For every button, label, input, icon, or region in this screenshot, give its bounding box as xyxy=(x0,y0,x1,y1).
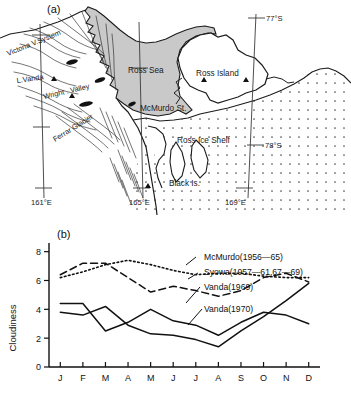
y-tick-label-2: 2 xyxy=(36,334,41,344)
cloudiness-chart-panel: (b) Cloudiness 02468 JFMAMJJASOND McMurd… xyxy=(0,213,351,400)
x-axis-month-label-10: N xyxy=(283,373,290,383)
graticule-label-lon-169e: 169°E xyxy=(225,198,246,207)
x-axis-month-label-8: S xyxy=(238,373,244,383)
legend-label-3: Vanda(1970) xyxy=(204,304,253,314)
x-axis-month-label-9: O xyxy=(260,373,267,383)
ross-island-east-spur xyxy=(266,77,294,83)
map-label-mcmurdo-station: McMurdo St. xyxy=(140,104,186,113)
x-axis-month-label-7: A xyxy=(215,373,221,383)
x-axis-month-label-3: A xyxy=(125,373,131,383)
legend-label-0: McMurdo(1956—65) xyxy=(204,252,283,262)
legend-leader-3 xyxy=(188,309,202,325)
figure-root: (a) Victona V.System L.Vanda Wright . Va… xyxy=(0,0,351,400)
y-tick-label-8: 8 xyxy=(36,247,41,257)
x-axis-month-label-0: J xyxy=(58,373,63,383)
y-axis-label: Cloudiness xyxy=(7,304,18,351)
map-label-lake-vanda: L.Vanda xyxy=(16,72,45,85)
map-label-black-island: Black Is. xyxy=(169,179,200,188)
y-axis-ticks: 02468 xyxy=(36,247,49,372)
y-tick-label-6: 6 xyxy=(36,276,41,286)
panel-b-label: (b) xyxy=(57,228,70,240)
y-tick-label-0: 0 xyxy=(36,362,41,372)
legend-label-1: Syowa(1957—61,67—69) xyxy=(204,267,303,277)
legend-leader-0 xyxy=(186,257,196,265)
x-axis-month-label-11: D xyxy=(305,373,312,383)
graticule-label-lon-165e: 165°E xyxy=(129,198,150,207)
legend-label-2: Vanda(1969) xyxy=(204,282,253,292)
y-tick-label-4: 4 xyxy=(36,305,41,315)
x-axis-month-label-4: M xyxy=(147,373,155,383)
map-label-ross-sea: Ross Sea xyxy=(128,66,164,75)
x-axis-month-labels: JFMAMJJASOND xyxy=(58,373,312,383)
graticule-label-lat-77s: 77°S xyxy=(266,14,283,23)
graticule-label-lon-161e: 161°E xyxy=(31,198,52,207)
map-panel: (a) Victona V.System L.Vanda Wright . Va… xyxy=(0,0,351,215)
graticule-label-lat-78s: 78°S xyxy=(265,141,282,150)
series-line-vanda-1970 xyxy=(60,283,308,346)
map-label-victoria-valley-system: Victona V.System xyxy=(5,28,62,58)
map-label-ross-island: Ross Island xyxy=(196,69,239,78)
x-axis-month-label-2: M xyxy=(102,373,110,383)
marker-vanda xyxy=(51,76,57,81)
x-axis-month-label-6: J xyxy=(194,373,199,383)
panel-a-label: (a) xyxy=(47,3,60,15)
map-label-wright-valley: Wright . Valley xyxy=(42,82,90,101)
x-axis-month-label-1: F xyxy=(80,373,86,383)
map-label-ross-ice-shelf: Ross Ice Shelf xyxy=(177,136,231,145)
x-axis-month-label-5: J xyxy=(171,373,176,383)
x-axis-ticks xyxy=(60,362,308,367)
series-line-vanda-1969 xyxy=(60,304,308,336)
